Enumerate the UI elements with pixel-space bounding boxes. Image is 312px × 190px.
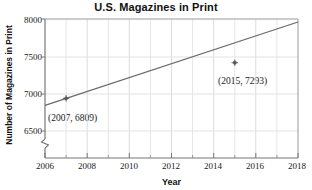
chart-container: U.S. Magazines in Print Number of Magazi… bbox=[0, 0, 312, 190]
data-point-marker-2015 bbox=[232, 60, 238, 66]
data-point-marker-2007 bbox=[63, 95, 69, 101]
plot-area bbox=[0, 0, 312, 190]
y-axis-break-icon bbox=[42, 139, 49, 148]
x-axis-ticks bbox=[45, 153, 298, 158]
